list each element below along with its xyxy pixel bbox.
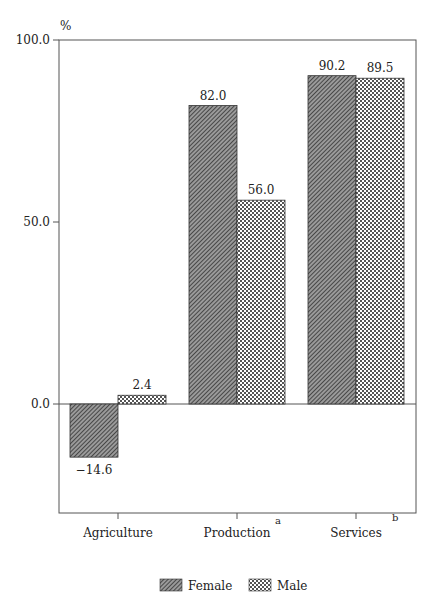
y-axis-label: % (60, 19, 71, 33)
y-tick-label: 0.0 (31, 397, 50, 411)
data-label: 56.0 (248, 183, 275, 197)
bar-female-services (308, 76, 356, 404)
x-tick-label: Production (204, 526, 271, 540)
legend: FemaleMale (160, 579, 307, 593)
data-label: −14.6 (76, 463, 113, 477)
bar-female-agriculture (70, 404, 118, 457)
x-axis: AgricultureProductionaServicesb (82, 512, 398, 540)
data-label: 2.4 (132, 378, 151, 392)
legend-label: Male (277, 579, 307, 593)
bar-male-production (237, 200, 285, 404)
legend-swatch-female (160, 579, 182, 591)
data-label: 82.0 (200, 89, 227, 103)
legend-label: Female (188, 579, 232, 593)
bar-chart: 0.050.0100.0% AgricultureProductionaServ… (0, 0, 435, 615)
bars: −14.62.482.056.090.289.5 (70, 59, 404, 477)
x-tick-label: Services (330, 526, 382, 540)
y-tick-label: 100.0 (16, 33, 50, 47)
bar-male-services (356, 78, 404, 404)
x-tick-label: Agriculture (82, 526, 153, 540)
y-axis: 0.050.0100.0% (16, 19, 72, 411)
bar-male-agriculture (118, 395, 166, 404)
bar-female-production (189, 106, 237, 404)
footnote-marker: b (392, 512, 398, 523)
footnote-marker: a (275, 515, 281, 526)
y-tick-label: 50.0 (23, 215, 50, 229)
data-label: 90.2 (319, 59, 346, 73)
data-label: 89.5 (367, 61, 394, 75)
legend-swatch-male (249, 579, 271, 591)
